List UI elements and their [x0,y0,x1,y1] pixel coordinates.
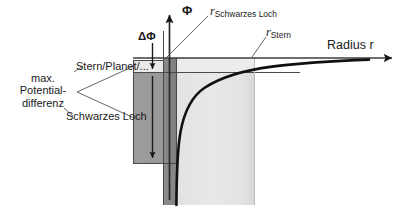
r-star-subscript: Stern [271,30,291,40]
r-black-hole-label: rSchwarzes Loch [210,5,277,19]
y-axis-label: Φ [182,4,192,18]
r-black-hole-subscript: Schwarzes Loch [215,9,277,19]
star-planet-callout: Stern/Planet/... [76,60,149,72]
star-top-band [163,58,254,73]
diagram-canvas: Radius r Φ ΔΦ rSchwarzes Loch rStern Ste… [0,0,408,210]
black-hole-callout: Schwarzes Loch [66,110,147,122]
max-potential-line-1: max. [31,72,55,84]
x-axis-label: Radius r [327,38,374,52]
r-star-label: rStern [266,26,291,40]
max-potential-difference-label: max. Potential- differenz [12,72,74,109]
max-potential-line-3: differenz [22,97,64,109]
leader-r-star [252,37,266,57]
shaded-regions [133,58,254,205]
leader-r-black-hole [166,16,208,58]
delta-phi-label: ΔΦ [138,30,156,43]
max-potential-line-2: Potential- [20,84,66,96]
